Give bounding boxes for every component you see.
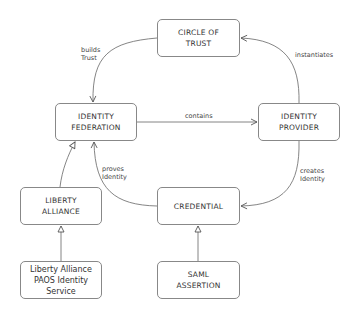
node-label: Assertion — [176, 280, 220, 291]
node-identity-federation[interactable]: Identity Federation — [55, 103, 137, 141]
edge-label-instantiates: instantiates — [295, 51, 333, 59]
node-saml-assertion[interactable]: SAML Assertion — [157, 261, 240, 299]
node-label: Circle Of — [178, 27, 219, 38]
node-circle-of-trust[interactable]: Circle Of Trust — [157, 19, 240, 57]
edge-builds-trust — [93, 38, 157, 102]
node-label: SAML — [188, 269, 209, 280]
node-label: Liberty — [45, 195, 77, 206]
node-label: Trust — [186, 38, 212, 49]
edge-label-creates-identity: creates Identity — [300, 167, 325, 183]
edge-liberty-generalization — [60, 142, 75, 187]
node-label: Identity — [281, 111, 317, 122]
node-label: Identity — [78, 111, 114, 122]
node-label: Credential — [174, 201, 223, 212]
node-identity-provider[interactable]: Identity Provider — [258, 103, 340, 141]
edge-label-contains: contains — [185, 112, 213, 120]
node-label: Federation — [71, 122, 120, 133]
edge-instantiates — [241, 38, 299, 103]
edge-label-proves-identity: proves Identity — [102, 165, 127, 181]
edge-creates-identity — [241, 141, 299, 206]
node-label: Alliance — [42, 206, 80, 217]
node-label: Liberty Alliance — [30, 264, 92, 275]
node-liberty-alliance[interactable]: Liberty Alliance — [20, 187, 102, 225]
node-liberty-paos-identity-service[interactable]: Liberty Alliance PAOS Identity Service — [20, 261, 102, 299]
node-credential[interactable]: Credential — [157, 187, 240, 225]
node-label: PAOS Identity Service — [21, 275, 101, 297]
edge-label-builds-trust: builds Trust — [81, 46, 100, 62]
node-label: Provider — [279, 122, 319, 133]
